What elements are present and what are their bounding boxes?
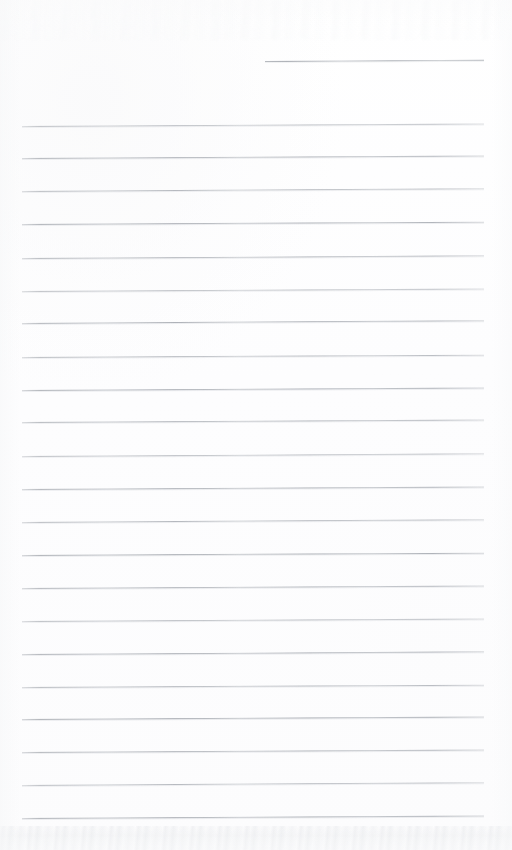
ruled-line [22,156,484,159]
top-ghost-artifact [0,0,512,40]
ruled-line [22,716,484,720]
ruled-line [22,651,484,655]
ruled-line [22,289,484,292]
ruled-line [22,123,484,127]
ruled-line [22,255,484,259]
ruled-line [22,585,484,589]
ruled-line [22,519,484,523]
bottom-ghost-artifact [0,826,512,850]
paper-page [0,0,512,850]
date-rule [265,60,484,62]
ruled-line [22,320,484,324]
ruled-line [22,619,484,622]
ruled-line [22,453,484,457]
ruled-line [22,553,484,556]
ruled-line [22,387,484,391]
ruled-line [22,355,484,358]
ruled-line [22,750,484,753]
ruled-line [22,782,484,786]
ruled-line [22,816,484,819]
ruled-line [22,188,484,192]
ruled-line [22,222,484,225]
ruled-line [22,487,484,490]
ruled-line [22,685,484,688]
ruled-line [22,420,484,423]
